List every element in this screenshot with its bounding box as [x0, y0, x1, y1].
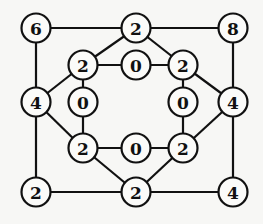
node-label: 8	[227, 19, 239, 39]
graph-node: 4	[22, 88, 51, 117]
node-label: 2	[130, 183, 142, 203]
node-label: 6	[30, 19, 42, 39]
graph-node: 2	[22, 178, 51, 207]
node-label: 4	[227, 93, 239, 113]
graph-node: 2	[122, 178, 151, 207]
graph-node: 0	[122, 134, 151, 163]
graph-node: 2	[69, 51, 98, 80]
graph-node: 8	[219, 14, 248, 43]
node-label: 4	[30, 93, 42, 113]
node-label: 0	[130, 139, 142, 159]
graph-node: 0	[122, 51, 151, 80]
node-label: 2	[177, 56, 189, 76]
node-label: 0	[177, 93, 189, 113]
graph-node: 2	[122, 14, 151, 43]
node-label: 2	[30, 183, 42, 203]
graph-node: 4	[219, 88, 248, 117]
graph-node: 4	[219, 178, 248, 207]
node-label: 0	[77, 93, 89, 113]
graph-diagram: 6282024004202224	[0, 0, 263, 224]
node-label: 2	[177, 139, 189, 159]
graph-node: 0	[169, 88, 198, 117]
node-label: 2	[130, 19, 142, 39]
node-label: 0	[130, 56, 142, 76]
node-label: 2	[77, 56, 89, 76]
node-label: 2	[77, 139, 89, 159]
graph-node: 0	[69, 88, 98, 117]
graph-node: 2	[169, 51, 198, 80]
nodes: 6282024004202224	[22, 14, 248, 207]
graph-node: 2	[169, 134, 198, 163]
node-label: 4	[227, 183, 239, 203]
graph-node: 6	[22, 14, 51, 43]
graph-node: 2	[69, 134, 98, 163]
